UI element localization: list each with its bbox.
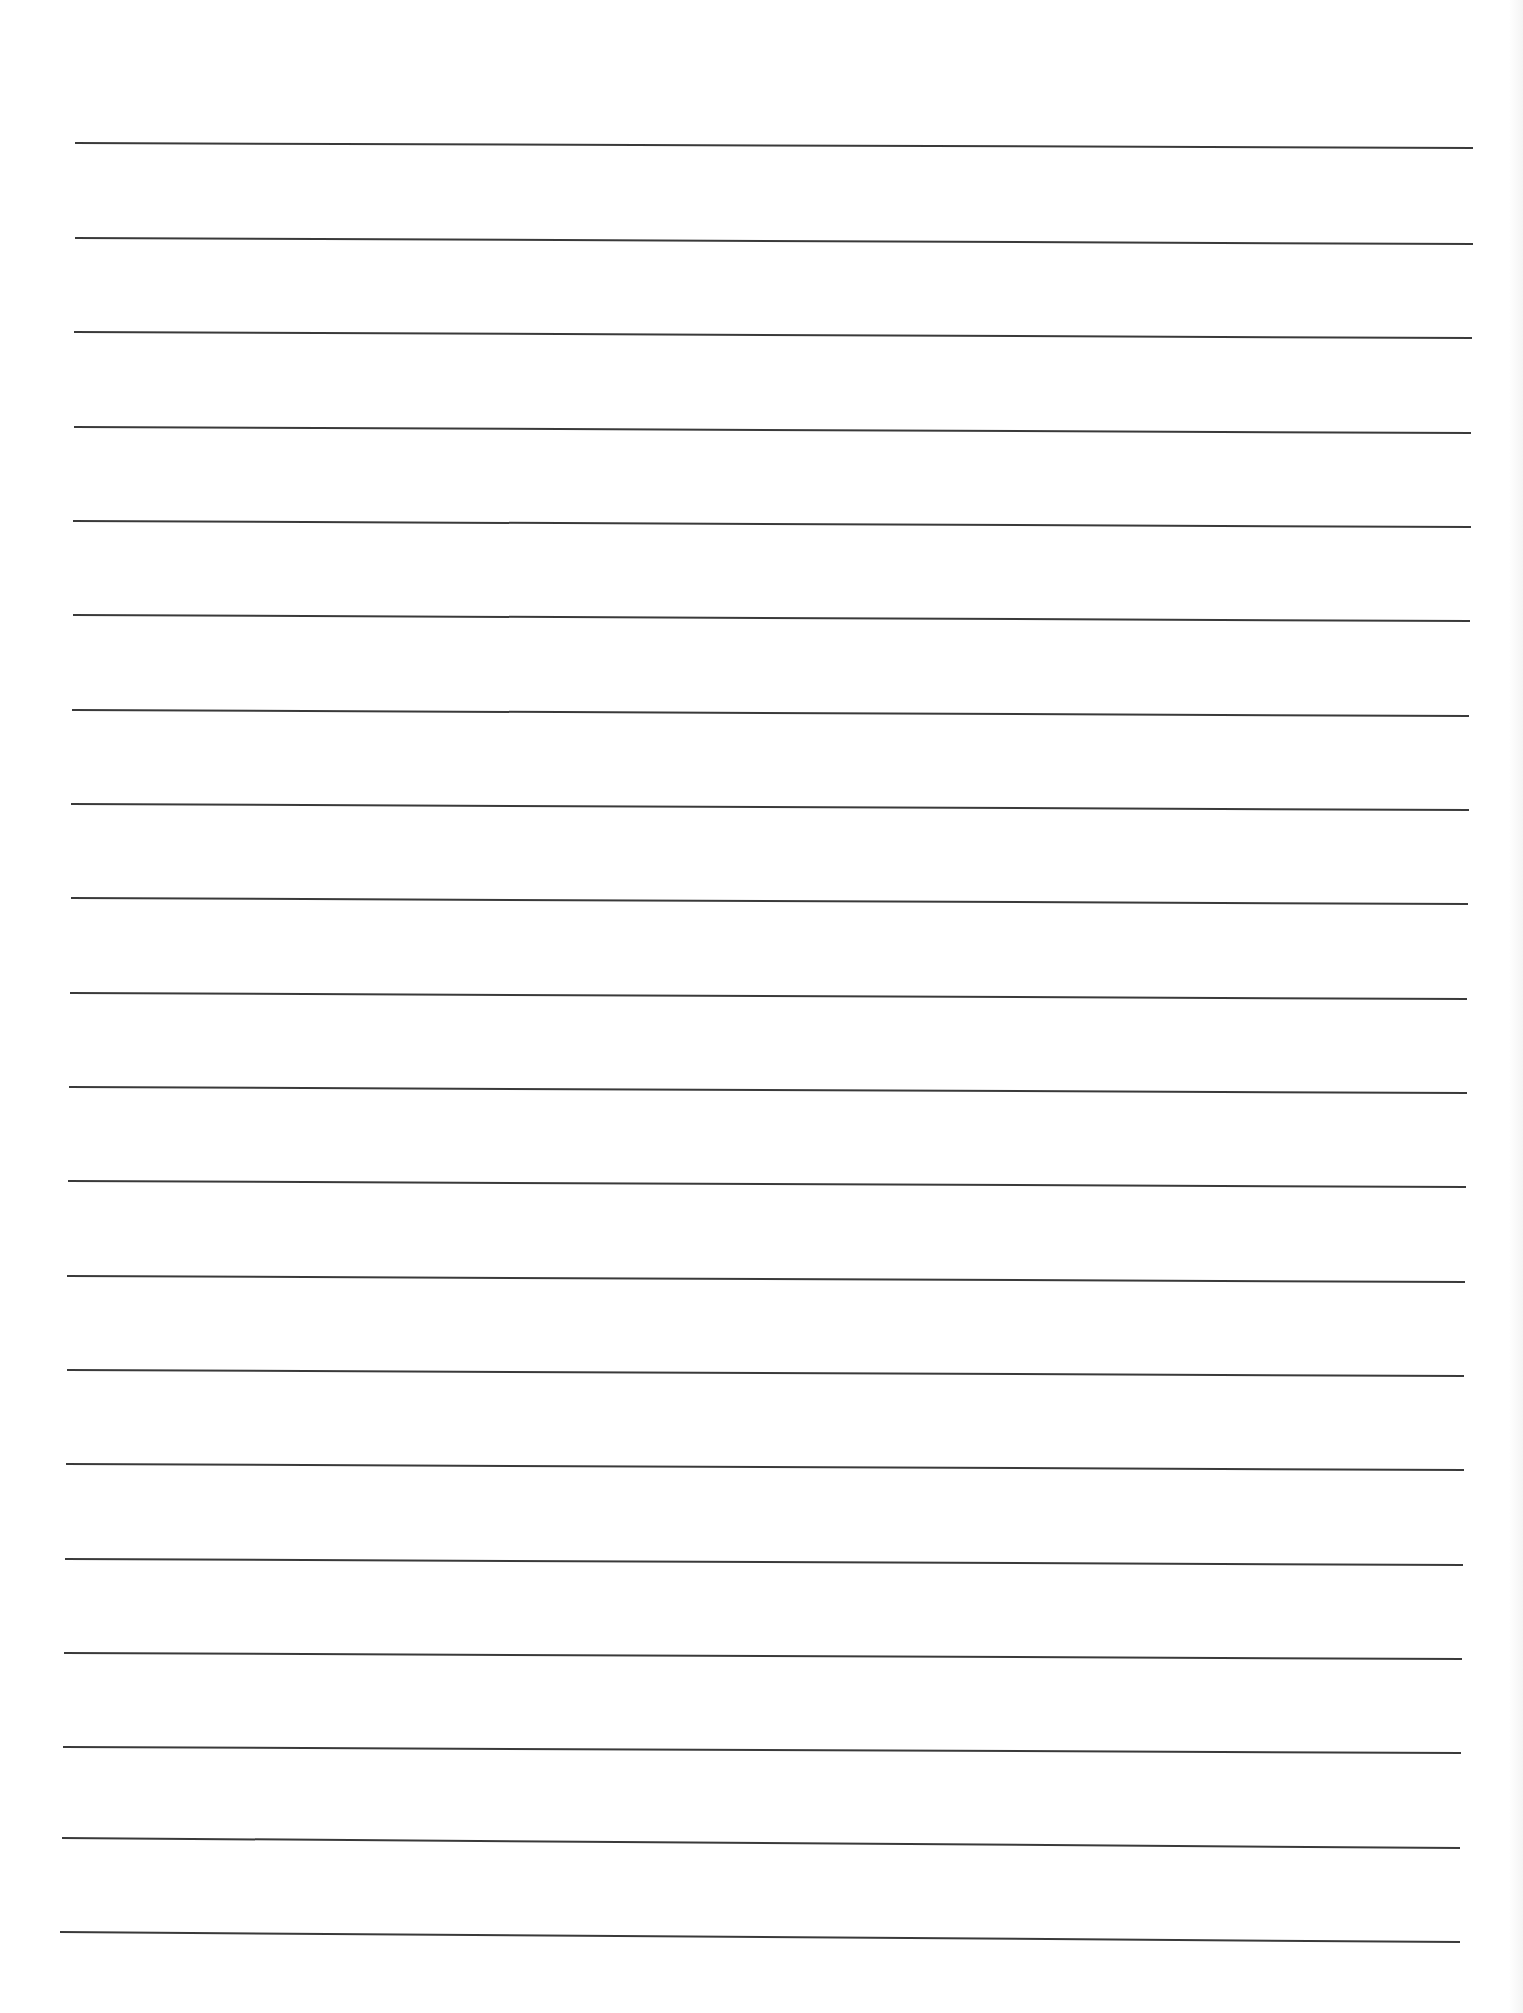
ruled-line-18	[63, 1747, 1461, 1753]
ruled-line-14	[67, 1370, 1464, 1376]
ruled-line-19	[62, 1838, 1460, 1848]
ruled-line-20	[60, 1932, 1460, 1942]
ruled-line-16	[65, 1559, 1463, 1565]
ruled-line-11	[69, 1087, 1467, 1093]
ruled-line-15	[66, 1464, 1464, 1470]
lined-paper-page	[0, 0, 1523, 2013]
ruled-line-7	[72, 710, 1469, 716]
ruled-line-12	[68, 1181, 1466, 1187]
ruled-line-5	[73, 521, 1471, 527]
ruled-line-8	[71, 804, 1469, 810]
ruled-line-13	[67, 1276, 1465, 1282]
ruled-line-17	[64, 1653, 1462, 1659]
ruled-line-1	[75, 143, 1473, 148]
ruled-line-6	[73, 615, 1470, 621]
ruled-line-9	[71, 898, 1468, 904]
ruled-line-2	[75, 238, 1473, 244]
ruled-line-10	[70, 993, 1467, 999]
ruled-lines	[0, 0, 1523, 2013]
ruled-line-3	[74, 332, 1472, 338]
ruled-line-4	[74, 427, 1471, 433]
